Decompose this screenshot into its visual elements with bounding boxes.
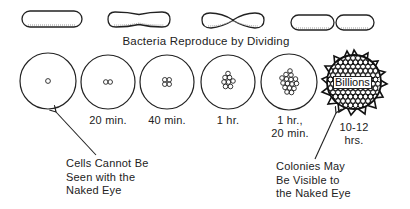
diagram-title: Bacteria Reproduce by Dividing bbox=[122, 35, 289, 48]
division-stage-1-rod bbox=[22, 11, 82, 27]
callout-colonies-visible: Colonies May Be Visible to the Naked Eye bbox=[276, 160, 351, 201]
time-label-1-hr: 1 hr. bbox=[217, 114, 239, 127]
division-stage-4-daughter-cells bbox=[291, 15, 374, 30]
billions-label: Billions bbox=[333, 76, 372, 89]
bacteria-growth-diagram: Bacteria Reproduce by Dividing Billions … bbox=[0, 0, 410, 209]
division-stage-2-pinching bbox=[108, 12, 170, 27]
time-label-20-min: 20 min. bbox=[89, 114, 126, 127]
time-label-10-12-hrs-line2: hrs. bbox=[344, 134, 363, 147]
growth-stage-3-four-cells bbox=[140, 55, 194, 109]
growth-stage-5-sixteen-cells bbox=[261, 54, 317, 110]
time-label-10-12-hrs-line1: 10-12 bbox=[339, 121, 368, 134]
arrow-to-colony bbox=[315, 113, 336, 159]
callout-cells-invisible: Cells Cannot Be Seen with the Naked Eye bbox=[66, 157, 149, 198]
time-label-1-hr-20-min-line2: 20 min. bbox=[271, 127, 308, 140]
growth-stage-2-two-cells bbox=[81, 55, 135, 109]
growth-stage-4-eight-cells bbox=[201, 55, 255, 109]
time-label-40-min: 40 min. bbox=[148, 114, 185, 127]
time-label-1-hr-20-min-line1: 1 hr., bbox=[277, 114, 303, 127]
growth-stage-1-single-cell bbox=[20, 53, 76, 109]
division-stage-3-constricted bbox=[202, 13, 264, 28]
